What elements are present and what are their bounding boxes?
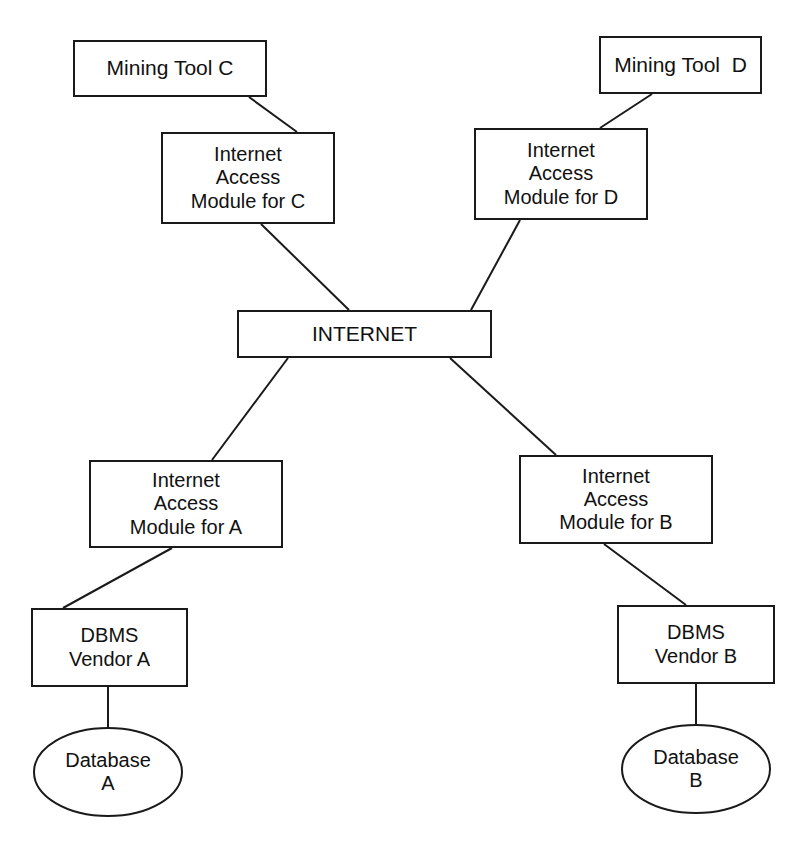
node-label-line: DBMS: [667, 621, 725, 644]
node-label-line: A: [101, 772, 114, 795]
node-database-b-label: Database B: [620, 723, 772, 815]
node-label-line: Access: [216, 166, 280, 189]
node-label-line: Access: [154, 492, 218, 515]
edge-iam-a-to-dbms-a: [63, 548, 172, 608]
node-label-line: DBMS: [81, 624, 139, 647]
node-label-line: Mining Tool C: [107, 56, 234, 80]
diagram-edges-layer: [0, 0, 809, 845]
node-label-line: Module for D: [504, 186, 619, 209]
node-label-line: Vendor A: [69, 648, 150, 671]
node-label-line: Module for C: [191, 190, 306, 213]
node-dbms-vendor-a[interactable]: DBMS Vendor A: [31, 608, 188, 687]
node-internet-access-module-d[interactable]: Internet Access Module for D: [474, 128, 648, 220]
node-label-line: B: [689, 769, 702, 792]
edge-internet-to-iam-a: [212, 358, 288, 460]
node-label-line: Internet: [527, 139, 595, 162]
node-label-line: Access: [584, 488, 648, 511]
node-database-a-label: Database A: [32, 726, 184, 818]
node-label-line: Database: [653, 746, 739, 769]
diagram-canvas: Mining Tool C Mining Tool D Internet Acc…: [0, 0, 809, 845]
node-label-line: Mining Tool D: [614, 53, 747, 77]
node-dbms-vendor-b[interactable]: DBMS Vendor B: [617, 605, 775, 684]
node-label-line: Vendor B: [655, 645, 737, 668]
node-label-line: Access: [529, 162, 593, 185]
node-database-a[interactable]: Database A: [32, 726, 184, 818]
node-mining-tool-c[interactable]: Mining Tool C: [73, 40, 267, 97]
node-label-line: Module for A: [130, 516, 242, 539]
node-label-line: Module for B: [559, 511, 672, 534]
node-label-line: Internet: [214, 143, 282, 166]
node-label-line: INTERNET: [312, 322, 417, 346]
node-mining-tool-d[interactable]: Mining Tool D: [599, 36, 762, 94]
edge-mining-c-to-iam-c: [249, 97, 297, 132]
edge-internet-to-iam-b: [450, 358, 556, 455]
node-label-line: Internet: [582, 465, 650, 488]
node-internet-access-module-c[interactable]: Internet Access Module for C: [161, 132, 335, 224]
edge-iam-d-to-internet: [471, 220, 520, 310]
edge-iam-c-to-internet: [261, 224, 349, 310]
node-label-line: Internet: [152, 469, 220, 492]
node-internet[interactable]: INTERNET: [237, 310, 492, 358]
node-internet-access-module-a[interactable]: Internet Access Module for A: [89, 460, 283, 548]
edge-mining-d-to-iam-d: [600, 94, 652, 128]
node-label-line: Database: [65, 749, 151, 772]
edge-iam-b-to-dbms-b: [604, 544, 686, 605]
node-database-b[interactable]: Database B: [620, 723, 772, 815]
node-internet-access-module-b[interactable]: Internet Access Module for B: [519, 455, 713, 544]
